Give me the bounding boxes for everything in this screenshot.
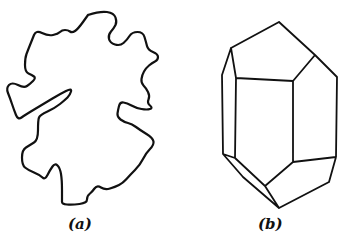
grain-outline-path xyxy=(7,12,158,205)
panel-label-b: (b) xyxy=(258,215,283,233)
figure-canvas xyxy=(0,0,354,245)
crystal-edges-path xyxy=(222,22,337,208)
crystal-drawing xyxy=(222,22,337,208)
irregular-grain-outline xyxy=(7,12,158,205)
panel-label-a: (a) xyxy=(68,215,92,233)
